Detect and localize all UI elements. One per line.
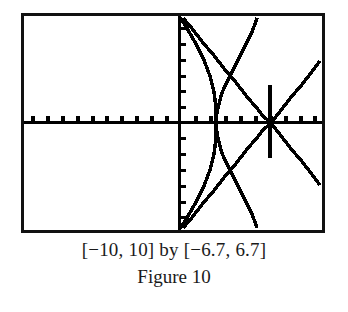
figure-number-label: Figure 10: [0, 266, 348, 288]
viewing-window-range: [−10, 10] by [−6.7, 6.7]: [0, 239, 348, 261]
calculator-screen: [21, 13, 325, 233]
figure-container: [−10, 10] by [−6.7, 6.7] Figure 10: [0, 0, 348, 312]
figure-caption: [−10, 10] by [−6.7, 6.7] Figure 10: [0, 239, 348, 289]
plot-area: [24, 16, 322, 230]
